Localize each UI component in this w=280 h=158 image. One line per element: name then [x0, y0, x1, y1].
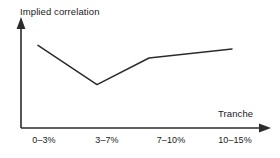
up-arrow-icon [17, 17, 26, 29]
x-tick-label-2: 7–10% [157, 135, 186, 145]
x-tick-label-1: 3–7% [95, 135, 118, 145]
implied-correlation-line [38, 45, 232, 84]
x-tick-label-3: 10–15% [218, 135, 252, 145]
x-tick-label-0: 0–3% [32, 135, 55, 145]
right-arrow-icon [259, 123, 271, 132]
y-axis-label: Implied correlation [20, 6, 100, 17]
x-axis-label: Tranche [218, 108, 253, 119]
x-axis-tick-labels: 0–3% 3–7% 7–10% 10–15% [0, 135, 280, 151]
implied-correlation-chart: Implied correlation Tranche 0–3% 3–7% 7–… [0, 0, 280, 158]
